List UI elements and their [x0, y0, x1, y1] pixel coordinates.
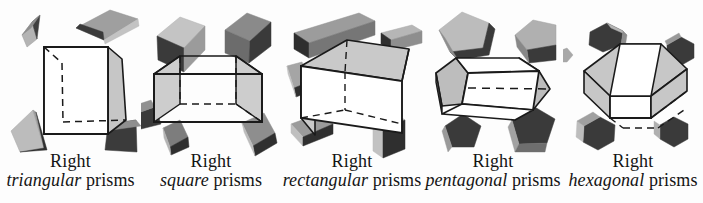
scattered-prism [654, 117, 688, 147]
scattered-prism [563, 48, 573, 62]
panel-triangular: Right triangular prisms [0, 0, 141, 203]
caption-triangular: Right triangular prisms [0, 152, 141, 189]
caption-shape-word: pentagonal [425, 170, 507, 190]
scattered-prism [515, 20, 556, 63]
main-square-prism [154, 56, 262, 122]
panel-rectangular: Right rectangular prisms [281, 0, 423, 203]
caption-line-right: Right [141, 152, 281, 171]
panel-pentagonal: Right pentagonal prisms [423, 0, 563, 203]
caption-shape-word: triangular [6, 170, 81, 190]
panel-hexagonal: Right hexagonal prisms [563, 0, 703, 203]
main-pentagonal-prism [436, 58, 550, 120]
caption-prisms-word: prisms [81, 170, 134, 190]
caption-line-shape: square prisms [141, 171, 281, 190]
caption-prisms-word: prisms [644, 170, 697, 190]
scattered-prism [22, 15, 40, 47]
caption-prisms-word: prisms [507, 170, 560, 190]
triangular-prism-artwork [0, 0, 141, 160]
caption-shape-word: hexagonal [568, 170, 644, 190]
caption-line-shape: rectangular prisms [281, 171, 423, 190]
caption-rectangular: Right rectangular prisms [281, 152, 423, 189]
scattered-prism [442, 114, 481, 152]
main-triangular-prism [44, 47, 126, 134]
hexagonal-prism-artwork [563, 0, 703, 160]
pentagonal-prism-artwork [423, 0, 563, 160]
caption-square: Right square prisms [141, 152, 281, 189]
caption-line-right: Right [423, 152, 563, 171]
square-prism-artwork [141, 0, 281, 160]
scattered-prism [76, 10, 139, 44]
caption-line-shape: pentagonal prisms [423, 171, 563, 190]
caption-line-right: Right [281, 152, 423, 171]
caption-pentagonal: Right pentagonal prisms [423, 152, 563, 189]
rectangular-prism-artwork [281, 0, 423, 160]
scattered-prism [439, 12, 495, 60]
caption-line-shape: triangular prisms [0, 171, 141, 190]
caption-line-right: Right [0, 152, 141, 171]
caption-shape-word: rectangular [283, 170, 368, 190]
caption-hexagonal: Right hexagonal prisms [563, 152, 703, 189]
scattered-prism [163, 120, 189, 155]
scattered-prism [11, 110, 47, 152]
panel-square: Right square prisms [141, 0, 281, 203]
caption-line-right: Right [563, 152, 703, 171]
caption-prisms-word: prisms [368, 170, 421, 190]
caption-prisms-word: prisms [209, 170, 262, 190]
caption-shape-word: square [160, 170, 209, 190]
scattered-prism [157, 17, 205, 72]
right-prisms-figure: Right triangular prisms [0, 0, 703, 203]
caption-line-shape: hexagonal prisms [563, 171, 703, 190]
main-hexagonal-prism [584, 44, 687, 128]
